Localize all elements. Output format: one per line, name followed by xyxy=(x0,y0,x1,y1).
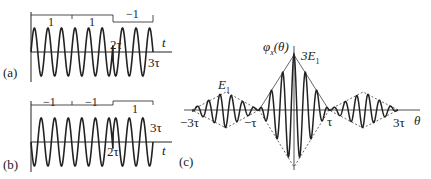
panel-c-peak-label: 3E1 xyxy=(301,49,319,66)
panel-a-mark-2tau: 2τ xyxy=(110,38,122,51)
panel-c-x-label: θ xyxy=(414,114,420,127)
panel-c-tick-negtau: −τ xyxy=(244,116,257,129)
panel-a-code-3: −1 xyxy=(126,8,139,20)
panel-c-tick-3tau: 3τ xyxy=(393,116,405,129)
panel-b-mark-3tau: 3τ xyxy=(150,121,162,134)
panel-a-mark-3tau: 3τ xyxy=(148,56,160,69)
panel-a-axis-label: t xyxy=(162,36,166,49)
panel-b-code-1: −1 xyxy=(43,96,56,108)
panel-a-tag: (a) xyxy=(3,66,17,79)
panel-b-graphics xyxy=(31,101,172,172)
diagram-canvas xyxy=(0,0,431,179)
panel-b-axis-label: t xyxy=(162,144,166,157)
panel-c-tick-tau: τ xyxy=(327,115,332,128)
panel-b-code-2: −1 xyxy=(85,96,98,108)
panel-c-side-label: E1 xyxy=(218,78,230,95)
panel-c-tick-neg3tau: −3τ xyxy=(180,116,199,129)
panel-b-code-3: 1 xyxy=(132,103,138,115)
panel-b-mark-2tau: 2τ xyxy=(107,145,119,158)
panel-c-tag: (c) xyxy=(179,155,193,168)
panel-c-y-label: φx(θ) xyxy=(263,40,289,57)
panel-a-code-2: 1 xyxy=(89,16,95,28)
panel-c-correlation-waveform xyxy=(192,54,398,157)
panel-a-code-1: 1 xyxy=(48,16,54,28)
panel-b-tag: (b) xyxy=(3,158,18,171)
